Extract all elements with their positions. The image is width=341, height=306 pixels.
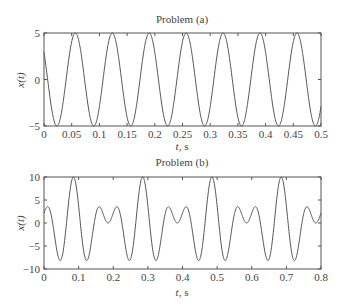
plot-a-xlabel: t, s	[176, 140, 189, 152]
x-tick-label: 0	[41, 271, 47, 283]
x-tick-label: 0.4	[176, 271, 190, 283]
x-tick-label: 0.1	[72, 271, 86, 283]
x-tick-label: 0.05	[62, 128, 82, 140]
x-tick-label: 0.35	[228, 128, 248, 140]
plot-b-ticks: 00.10.20.30.40.50.60.70.81050−5−10	[23, 171, 329, 283]
y-tick-label: −5	[28, 120, 40, 132]
x-tick-label: 0.5	[210, 271, 224, 283]
y-tick-label: 5	[35, 27, 41, 39]
x-tick-label: 0.7	[280, 271, 294, 283]
plot-b-signal-line	[44, 177, 321, 261]
x-tick-label: 0.15	[117, 128, 137, 140]
x-tick-label: 0.25	[173, 128, 193, 140]
y-tick-label: −10	[23, 263, 41, 275]
plot-b: Problem (b) 00.10.20.30.40.50.60.70.8105…	[14, 156, 328, 298]
plot-b-title: Problem (b)	[156, 156, 209, 169]
plot-a-ticks: 00.050.10.150.20.250.30.350.40.450.550−5	[28, 27, 328, 140]
x-tick-label: 0.3	[203, 128, 217, 140]
plot-a-axes-box	[44, 33, 321, 126]
y-tick-label: 5	[35, 194, 41, 206]
y-tick-label: −5	[28, 240, 40, 252]
plot-a-signal-line	[44, 33, 321, 126]
y-tick-label: 0	[35, 217, 41, 229]
y-tick-label: 0	[35, 74, 41, 86]
x-tick-label: 0.3	[141, 271, 155, 283]
x-tick-label: 0.5	[314, 128, 328, 140]
plot-b-xlabel: t, s	[176, 286, 189, 298]
x-tick-label: 0.2	[148, 128, 162, 140]
plot-b-axes-box	[44, 177, 321, 269]
x-tick-label: 0	[41, 128, 47, 140]
y-tick-label: 10	[29, 171, 41, 183]
plot-a-ylabel: x(t)	[14, 72, 27, 89]
x-tick-label: 0.2	[106, 271, 120, 283]
x-tick-label: 0.45	[284, 128, 304, 140]
x-tick-label: 0.8	[314, 271, 328, 283]
x-tick-label: 0.1	[93, 128, 107, 140]
x-tick-label: 0.4	[259, 128, 273, 140]
figure: Problem (a) 00.050.10.150.20.250.30.350.…	[0, 0, 341, 306]
plot-a: Problem (a) 00.050.10.150.20.250.30.350.…	[14, 13, 328, 152]
plot-a-title: Problem (a)	[156, 13, 209, 26]
x-tick-label: 0.6	[245, 271, 259, 283]
plot-b-ylabel: x(t)	[14, 215, 27, 232]
